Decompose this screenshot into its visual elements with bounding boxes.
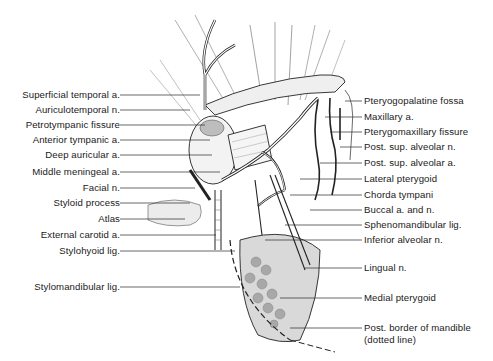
label-deep-auricular-artery: Deep auricular a. [45,149,120,160]
label-middle-meningeal-artery: Middle meningeal a. [32,166,120,177]
label-superficial-temporal-artery: Superficial temporal a. [22,89,120,100]
label-stylomandibular-ligament: Stylomandibular lig. [34,281,120,292]
label-stylohyoid-ligament: Stylohyoid lig. [59,245,120,256]
label-sphenomandibular-ligament: Sphenomandibular lig. [364,219,462,230]
anatomy-figure: Superficial temporal a. Auriculotemporal… [0,0,493,361]
label-inferior-alveolar-nerve: Inferior alveolar n. [364,234,443,245]
label-auriculotemporal-nerve: Auriculotemporal n. [35,104,120,115]
label-anterior-tympanic-artery: Anterior tympanic a. [33,134,120,145]
label-medial-pterygoid: Medial pterygoid [364,292,436,303]
label-post-sup-alveolar-nerve: Post. sup. alveolar n. [364,141,456,152]
label-post-border-mandible: Post. border of mandible [364,322,471,333]
label-chorda-tympani: Chorda tympani [364,189,433,200]
label-pterygopalatine-fossa: Pteryogopalatine fossa [364,95,464,106]
label-lingual-nerve: Lingual n. [364,262,407,273]
label-buccal-artery-nerve: Buccal a. and n. [364,204,434,215]
label-dotted-line-note: (dotted line) [364,334,416,345]
label-styloid-process: Styloid process [53,197,120,208]
label-maxillary-artery: Maxillary a. [364,111,414,122]
label-lateral-pterygoid: Lateral pterygoid [364,173,437,184]
label-external-carotid-artery: External carotid a. [41,229,120,240]
label-petrotympanic-fissure: Petrotympanic fissure [26,119,120,130]
label-facial-nerve: Facial n. [83,182,120,193]
label-post-sup-alveolar-artery: Post. sup. alveolar a. [364,157,456,168]
label-pterygomaxillary-fissure: Pterygomaxillary fissure [364,126,468,137]
label-atlas: Atlas [98,213,120,224]
